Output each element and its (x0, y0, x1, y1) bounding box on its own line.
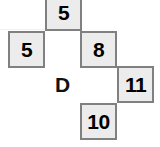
cell-top-five: 5 (45, 0, 82, 31)
cell-value-eight: 8 (93, 39, 104, 60)
diagram-canvas: 5 5 8 D 11 10 (0, 0, 160, 147)
cell-eight: 8 (80, 31, 117, 68)
faint-guide-line-horizontal (0, 29, 45, 30)
cell-value-ten: 10 (87, 111, 109, 132)
cell-value-label-d: D (55, 74, 70, 95)
cell-value-eleven: 11 (125, 74, 146, 95)
cell-ten: 10 (80, 103, 117, 140)
cell-value-top-five: 5 (58, 2, 69, 23)
cell-label-d: D (44, 66, 81, 103)
cell-left-five: 5 (8, 31, 45, 68)
cell-value-left-five: 5 (21, 39, 32, 60)
cell-eleven: 11 (117, 66, 154, 103)
